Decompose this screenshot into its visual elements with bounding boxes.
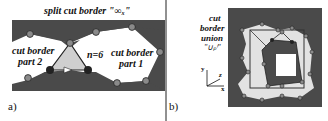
vertex-node-dark xyxy=(46,66,54,74)
axis-x-label: x xyxy=(221,86,225,93)
vertex-node xyxy=(27,31,34,38)
n-label: n=6 xyxy=(87,50,103,60)
vertex-node xyxy=(93,29,100,36)
diagram-canvas xyxy=(0,0,328,121)
panel-a-caption: a) xyxy=(8,101,17,112)
vertex-node-dark xyxy=(270,38,274,42)
cut-border-part2-line1: cut border xyxy=(12,46,55,56)
vertex-node xyxy=(129,24,136,31)
axis-y-label: y xyxy=(201,66,205,73)
vertex-node-dark xyxy=(290,40,294,44)
cut-border-union-line4: "∪ₚⁱ" xyxy=(204,44,221,52)
cut-border-part1-line1: cut border xyxy=(111,48,154,58)
cut-border-union-line1: cut xyxy=(209,14,221,23)
axis-z-label: z xyxy=(219,72,222,79)
vertex-node xyxy=(25,75,32,82)
vertex-node xyxy=(67,40,74,47)
panel-a-title: split cut border "∞ₓ" xyxy=(44,6,130,16)
cut-border-part1-line2: part 1 xyxy=(119,59,143,69)
cut-border-union-line3: union xyxy=(201,34,223,43)
vertex-node xyxy=(143,78,150,85)
vertex-node xyxy=(157,49,164,56)
cut-border-part2-line2: part 2 xyxy=(18,57,42,67)
vertex-node-dark xyxy=(84,66,92,74)
cut-border-union-line2: border xyxy=(200,24,225,33)
vertex-node xyxy=(114,80,121,87)
hole xyxy=(276,54,296,76)
panel-b-caption: b) xyxy=(169,101,178,112)
